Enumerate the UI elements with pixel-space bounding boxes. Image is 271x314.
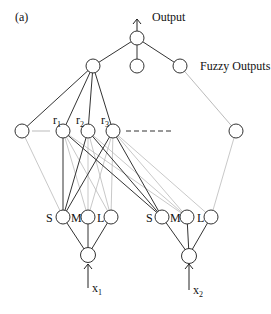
input-node-x1 bbox=[81, 248, 96, 263]
neuro-fuzzy-network-diagram bbox=[0, 0, 271, 314]
input-node-x2 bbox=[182, 249, 197, 264]
mf-node-x1-small bbox=[56, 210, 70, 224]
rule-label-r1: r1 bbox=[53, 114, 61, 129]
mf-label-x1-m: M bbox=[71, 212, 82, 224]
rule-node bbox=[229, 124, 243, 138]
mf-node-x2-small bbox=[155, 210, 169, 224]
output-node bbox=[130, 31, 144, 45]
output-arrow-icon bbox=[133, 19, 141, 31]
input-label-x2: x2 bbox=[193, 284, 203, 299]
rule-label-r3: r3 bbox=[101, 114, 109, 129]
rule-node bbox=[15, 124, 29, 138]
fuzzy-output-node bbox=[86, 59, 100, 73]
mf-node-x2-large bbox=[204, 210, 218, 224]
mf-label-x2-s: S bbox=[146, 212, 153, 224]
mf-node-x2-medium bbox=[180, 210, 194, 224]
fuzzy-output-node bbox=[130, 59, 144, 73]
input-label-x1: x1 bbox=[92, 282, 102, 297]
mf-label-x1-l: L bbox=[97, 212, 104, 224]
mf-label-x2-m: M bbox=[170, 212, 181, 224]
mf-label-x2-l: L bbox=[197, 212, 204, 224]
output-label: Output bbox=[152, 11, 185, 23]
mf-node-x1-medium bbox=[81, 210, 95, 224]
rule-to-mf-light-connections bbox=[22, 131, 236, 217]
fuzzy-outputs-label: Fuzzy Outputs bbox=[200, 60, 270, 72]
mf-label-x1-s: S bbox=[46, 212, 53, 224]
rule-label-r2: r2 bbox=[76, 114, 84, 129]
fuzzy-output-node bbox=[173, 59, 187, 73]
mf-node-x1-large bbox=[104, 210, 118, 224]
panel-label: (a) bbox=[15, 11, 28, 23]
